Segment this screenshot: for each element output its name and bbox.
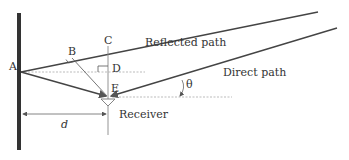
label-point-d: D: [112, 62, 121, 75]
label-distance-d: d: [61, 118, 68, 131]
receiver-icon: [101, 99, 115, 106]
label-point-a: A: [8, 60, 18, 73]
label-point-e: E: [111, 82, 119, 95]
incident-ray-a-e: [21, 72, 106, 96]
wall: [17, 13, 21, 150]
perpendicular-b-e: [72, 58, 107, 96]
label-direct-path: Direct path: [223, 66, 286, 79]
label-point-c: C: [104, 34, 112, 47]
label-reflected-path: Reflected path: [145, 36, 226, 49]
diagram-canvas: A B C D E Reflected path Direct path θ R…: [0, 0, 349, 160]
label-point-b: B: [68, 45, 76, 58]
right-angle-d: [98, 66, 108, 72]
label-theta: θ: [186, 78, 193, 91]
label-receiver: Receiver: [119, 108, 169, 121]
angle-arc: [180, 80, 184, 96]
